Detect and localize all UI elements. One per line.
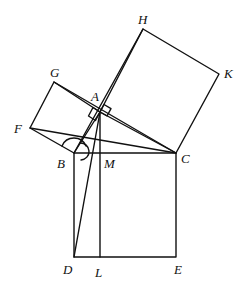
label-l: L <box>94 265 102 280</box>
angle-arc-b-inner <box>80 143 89 160</box>
label-d: D <box>62 262 73 277</box>
label-m: M <box>103 156 116 171</box>
label-g: G <box>50 65 60 80</box>
label-c: C <box>181 151 190 166</box>
label-a: A <box>90 89 99 104</box>
diagram-svg: A B C D E F G H K L M <box>0 0 247 291</box>
geometry-diagram: A B C D E F G H K L M <box>0 0 247 291</box>
label-e: E <box>173 262 182 277</box>
label-f: F <box>13 121 23 136</box>
square-achk <box>100 29 219 153</box>
segment-bh <box>74 29 143 153</box>
label-h: H <box>137 12 148 27</box>
label-b: B <box>57 156 65 171</box>
label-k: K <box>223 66 234 81</box>
